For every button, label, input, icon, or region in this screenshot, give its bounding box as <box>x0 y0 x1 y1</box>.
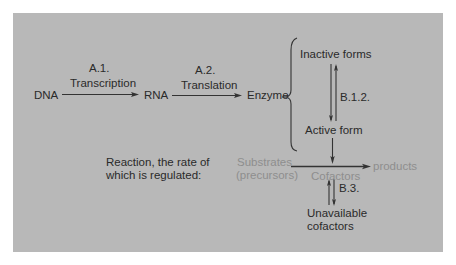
node-active-form: Active form <box>305 124 363 137</box>
node-products: products <box>373 160 417 173</box>
edge-a1-label: A.1. <box>89 62 109 75</box>
node-unavailable-cofactors: cofactors <box>307 220 354 233</box>
node-dna: DNA <box>34 89 58 102</box>
note-line1: Reaction, the rate of <box>106 156 210 169</box>
diagram-arrows <box>0 0 456 265</box>
edge-a1-caption: Transcription <box>70 77 136 90</box>
node-inactive-forms: Inactive forms <box>300 48 372 61</box>
node-rna: RNA <box>144 89 168 102</box>
node-enzyme: Enzyme <box>247 89 289 102</box>
edge-a2-label: A.2. <box>195 64 215 77</box>
edge-b3-label: B.3. <box>339 182 359 195</box>
note-line2: which is regulated: <box>106 169 201 182</box>
node-substrates: Substrates <box>237 156 292 169</box>
node-precursors: (precursors) <box>236 169 298 182</box>
node-unavailable: Unavailable <box>307 207 367 220</box>
edge-b12-label: B.1.2. <box>340 91 370 104</box>
edge-a2-caption: Translation <box>181 79 237 92</box>
